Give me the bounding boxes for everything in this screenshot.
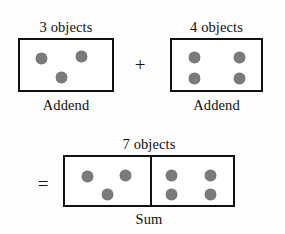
- sum-left-cell: [65, 157, 152, 205]
- addend-one-box: [18, 38, 114, 92]
- sum-right-cell: [152, 157, 232, 205]
- addend-two-bottom-label: Addend: [170, 98, 263, 113]
- sum-right-dot-2: [205, 170, 216, 181]
- addition-diagram: 3 objects Addend + 4 objects Addend = 7 …: [0, 0, 285, 234]
- addend-two-top-label: 4 objects: [170, 20, 263, 35]
- equals-operator: =: [34, 174, 52, 193]
- addend-one-dot-2: [76, 51, 87, 62]
- addend-two-dot-1: [189, 52, 200, 63]
- addend-two-box: [170, 38, 263, 92]
- sum-right-dot-1: [166, 170, 177, 181]
- addend-one-dot-3: [56, 72, 67, 83]
- sum-left-dot-1: [82, 171, 93, 182]
- addend-two-dot-3: [189, 73, 200, 84]
- addend-one-top-label: 3 objects: [18, 20, 114, 35]
- addend-one-dot-1: [36, 53, 47, 64]
- plus-operator: +: [132, 55, 148, 74]
- sum-bottom-label: Sum: [63, 212, 235, 227]
- addend-two-dot-2: [234, 52, 245, 63]
- addend-two-dot-4: [234, 73, 245, 84]
- sum-left-dot-2: [120, 170, 131, 181]
- sum-top-label: 7 objects: [63, 137, 235, 152]
- sum-left-dot-3: [102, 189, 113, 200]
- addend-one-bottom-label: Addend: [18, 98, 114, 113]
- sum-box: [63, 155, 235, 207]
- sum-right-dot-3: [166, 189, 177, 200]
- sum-right-dot-4: [205, 189, 216, 200]
